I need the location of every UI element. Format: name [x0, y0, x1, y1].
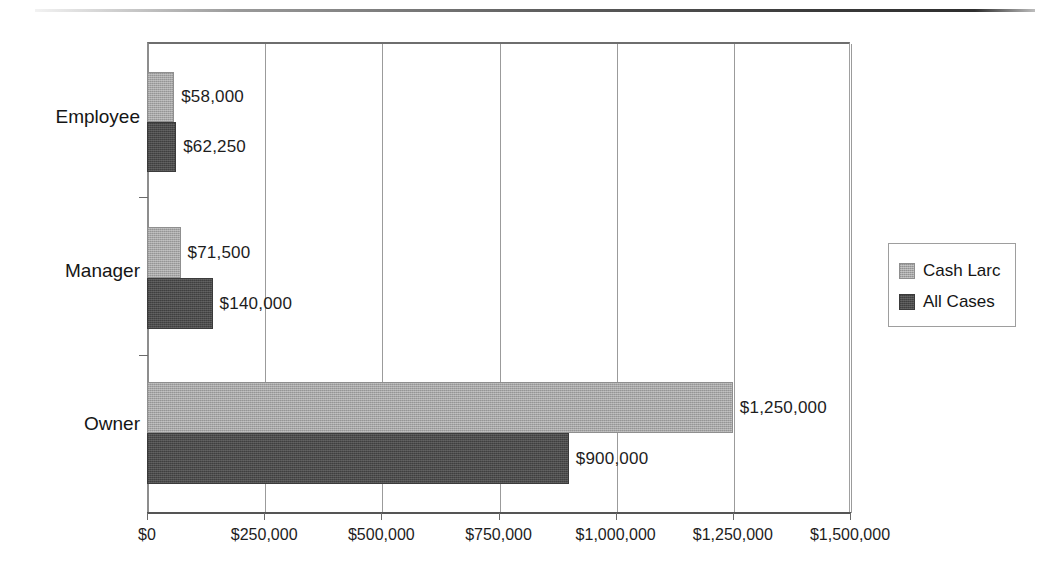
bar-value-label: $140,000 — [220, 294, 293, 314]
x-axis-tick — [381, 513, 382, 520]
legend-label-all-cases: All Cases — [923, 292, 995, 312]
x-axis-tick — [850, 513, 851, 520]
legend-label-cash-larc: Cash Larc — [923, 261, 1000, 281]
chart-legend: Cash Larc All Cases — [888, 243, 1016, 327]
x-axis-tick — [616, 513, 617, 520]
bar-value-label: $900,000 — [576, 449, 649, 469]
bar-value-label: $1,250,000 — [740, 398, 827, 418]
x-axis-tick — [499, 513, 500, 520]
x-axis-tick-label: $750,000 — [465, 526, 532, 544]
legend-swatch-icon-cash-larc — [899, 263, 915, 279]
bar-employee-all-cases — [147, 122, 176, 172]
bar-value-label: $58,000 — [181, 87, 244, 107]
legend-item-all-cases: All Cases — [899, 286, 1015, 317]
x-axis-tick-label: $250,000 — [231, 526, 298, 544]
x-axis-tick-label: $0 — [138, 526, 156, 544]
gridline — [617, 44, 618, 513]
chart-page: EmployeeManagerOwner $58,000$62,250$71,5… — [0, 0, 1052, 587]
x-axis-tick-label: $1,000,000 — [576, 526, 656, 544]
category-label-text: Manager — [65, 260, 140, 282]
gridline — [734, 44, 735, 513]
x-axis-tick — [147, 513, 148, 520]
bar-owner-all-cases — [147, 433, 569, 484]
bar-employee-cash-larc — [147, 72, 174, 122]
x-axis-tick — [733, 513, 734, 520]
bar-owner-cash-larc — [147, 382, 733, 433]
y-axis-tick — [139, 197, 148, 198]
scan-artifact-rule — [35, 9, 1035, 12]
bar-manager-cash-larc — [147, 227, 181, 278]
category-label-text: Owner — [84, 413, 140, 435]
x-axis-tick-label: $1,250,000 — [693, 526, 773, 544]
bar-manager-all-cases — [147, 278, 213, 329]
x-axis-tick-label: $500,000 — [348, 526, 415, 544]
legend-item-cash-larc: Cash Larc — [899, 255, 1015, 286]
x-axis-tick-label: $1,500,000 — [810, 526, 890, 544]
y-axis-tick — [139, 355, 148, 356]
bar-value-label: $62,250 — [183, 137, 246, 157]
x-axis-tick — [264, 513, 265, 520]
bar-value-label: $71,500 — [188, 243, 251, 263]
gridline — [851, 44, 852, 513]
category-label-text: Employee — [56, 106, 141, 128]
legend-swatch-icon-all-cases — [899, 294, 915, 310]
